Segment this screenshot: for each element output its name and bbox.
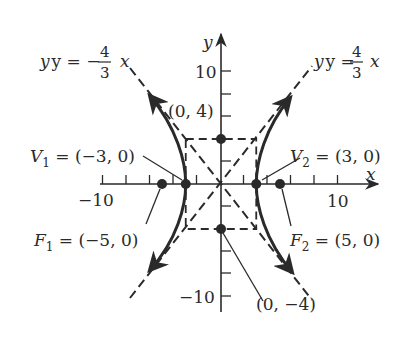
v1-label: V1 = (−3, 0) [30,146,135,170]
hyperbola-right-branch [256,98,292,272]
asymptote-right-numerator: 4 [352,43,362,61]
asymptote-left-denominator: 3 [100,64,110,82]
x-axis-label: x [366,164,376,184]
svg-text:F1 = (−5, 0): F1 = (−5, 0) [33,230,138,254]
asymptote-label-right: yy = 4 3 x [313,43,380,82]
svg-text:yy = −: yy = − [39,51,101,71]
vertex-v2-point [251,179,261,189]
y-axis-label: y [202,32,213,52]
asymptote-left-prefix: y = − [51,51,101,71]
vertex-v1-point [181,179,191,189]
x-axis: x −10 10 [78,164,378,211]
svg-text:F2 = (5, 0): F2 = (5, 0) [289,230,380,254]
svg-text:yy =: yy = [313,51,355,71]
asymptote-left-numerator: 4 [100,43,110,61]
x-tick-label-neg10: −10 [78,190,114,210]
b-top-point [216,134,226,144]
b-bottom-label: (0, −4) [256,294,316,314]
f1-label: F1 = (−5, 0) [33,230,138,254]
asymptote-right-var: x [370,51,380,71]
y-tick-label-neg10: −10 [179,287,215,307]
f2-label: F2 = (5, 0) [289,230,380,254]
focus-f2-point [275,179,285,189]
b-top-label: (0, 4) [168,101,214,121]
focus-f1-point [157,179,167,189]
svg-text:V1 = (−3, 0): V1 = (−3, 0) [30,146,135,170]
asymptote-right-prefix: y = [325,51,355,71]
asymptote-left-var: x [120,51,130,71]
hyperbola-diagram: x −10 10 y 10 −10 [0,0,412,347]
asymptote-right-denominator: 3 [352,64,362,82]
b-bottom-point [216,224,226,234]
x-tick-label-10: 10 [327,191,349,211]
y-tick-label-10: 10 [195,62,217,82]
y-axis: y 10 −10 [179,32,231,312]
hyperbola-left-branch [150,96,186,270]
asymptote-label-left: yy = − 4 3 x [39,43,130,82]
